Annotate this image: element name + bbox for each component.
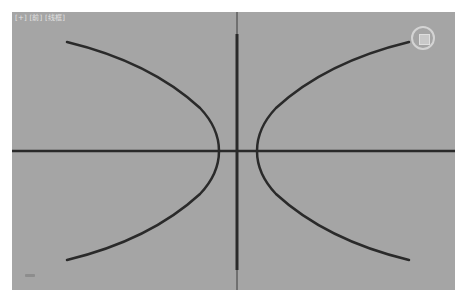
scene-canvas[interactable]: [12, 12, 455, 290]
viewcube-icon[interactable]: [411, 26, 435, 50]
front-viewport[interactable]: [+] [前] [线框]: [12, 12, 455, 290]
axis-tripod-icon: [25, 274, 35, 277]
viewcube-front-face[interactable]: [419, 34, 430, 45]
